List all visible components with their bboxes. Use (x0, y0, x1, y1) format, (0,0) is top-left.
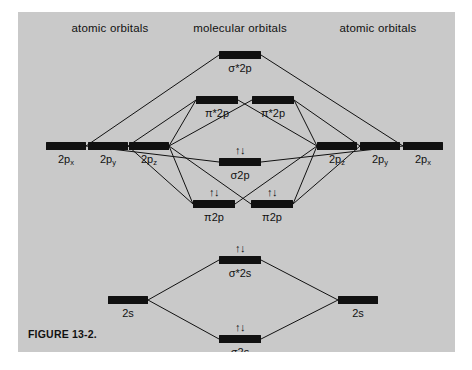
energy-level-label-ao-left-2pz: 2pz (141, 153, 157, 165)
energy-level-bar-sigma-star-2p (219, 51, 261, 59)
label-text: 2p (372, 153, 384, 165)
energy-level-bar-ao-left-2py (88, 142, 128, 150)
label-text: 2p (141, 153, 153, 165)
energy-level-label-ao-right-2py: 2py (372, 153, 388, 165)
energy-level-bar-pi-2p-right (251, 200, 293, 208)
label-subscript: z (341, 158, 345, 167)
energy-level-label-sigma-star-2s: σ*2s (229, 267, 252, 279)
correlation-line-ao-right-2s-to-sigma-star-2s (261, 260, 338, 300)
energy-level-bar-pi-star-2p-right (252, 96, 294, 104)
diagram-panel: atomic orbitalsmolecular orbitalsatomic … (18, 12, 455, 352)
energy-level-bar-pi-star-2p-left (196, 96, 238, 104)
label-text: 2p (100, 153, 112, 165)
header-molecular-orbitals: molecular orbitals (193, 22, 287, 34)
energy-level-bar-sigma-2p (219, 158, 261, 166)
label-subscript: x (427, 158, 431, 167)
figure-caption: FIGURE 13-2. (28, 328, 97, 340)
energy-level-bar-ao-right-2s (338, 296, 378, 304)
label-text: 2p (415, 153, 427, 165)
header-left-atomic-orbitals: atomic orbitals (71, 22, 148, 34)
energy-level-label-ao-left-2px: 2px (58, 153, 74, 165)
label-subscript: z (153, 158, 157, 167)
electron-pair-pi-2p-left: ↑↓ (209, 187, 219, 198)
correlation-line-ao-left-2pz-to-pi-star-2p-left (169, 100, 196, 146)
energy-level-bar-sigma-2s (219, 335, 261, 343)
energy-level-bar-ao-left-2s (108, 296, 148, 304)
energy-level-label-ao-right-2pz: 2pz (329, 153, 345, 165)
energy-level-bar-ao-right-2py (360, 142, 400, 150)
correlation-line-ao-left-2s-to-sigma-star-2s (148, 260, 219, 300)
header-right-atomic-orbitals: atomic orbitals (339, 22, 416, 34)
energy-level-bar-ao-right-2pz (317, 142, 357, 150)
energy-level-label-ao-right-2px: 2px (415, 153, 431, 165)
energy-level-label-sigma-2p: σ2p (230, 169, 249, 181)
electron-pair-sigma-star-2s: ↑↓ (235, 243, 245, 254)
correlation-line-ao-left-2py-to-pi-star-2p-left (128, 100, 196, 146)
correlation-line-ao-right-2py-to-pi-star-2p-right (294, 100, 360, 146)
energy-level-label-pi-star-2p-right: π*2p (261, 107, 285, 119)
label-text: 2p (329, 153, 341, 165)
correlation-line-ao-left-2s-to-sigma-2s (148, 300, 219, 339)
electron-pair-sigma-2s: ↑↓ (235, 322, 245, 333)
energy-level-label-sigma-2s: σ2s (231, 346, 249, 352)
energy-level-bar-sigma-star-2s (219, 256, 261, 264)
energy-level-label-pi-2p-left: π2p (204, 211, 224, 223)
energy-level-bar-pi-2p-left (193, 200, 235, 208)
molecular-orbital-diagram: atomic orbitalsmolecular orbitalsatomic … (0, 0, 472, 370)
electron-pair-sigma-2p: ↑↓ (235, 145, 245, 156)
label-subscript: y (384, 158, 388, 167)
energy-level-label-ao-left-2py: 2py (100, 153, 116, 165)
energy-level-label-ao-right-2s: 2s (352, 307, 364, 319)
correlation-line-ao-right-2s-to-sigma-2s (261, 300, 338, 339)
energy-level-bar-ao-left-2pz (129, 142, 169, 150)
electron-pair-pi-2p-right: ↑↓ (267, 187, 277, 198)
energy-level-label-ao-left-2s: 2s (122, 307, 134, 319)
energy-level-label-pi-star-2p-left: π*2p (205, 107, 229, 119)
energy-level-label-pi-2p-right: π2p (262, 211, 282, 223)
energy-level-label-sigma-star-2p: σ*2p (228, 62, 251, 74)
label-text: 2p (58, 153, 70, 165)
label-subscript: x (70, 158, 74, 167)
energy-level-bar-ao-left-2px (46, 142, 86, 150)
energy-level-bar-ao-right-2px (403, 142, 443, 150)
label-subscript: y (112, 158, 116, 167)
